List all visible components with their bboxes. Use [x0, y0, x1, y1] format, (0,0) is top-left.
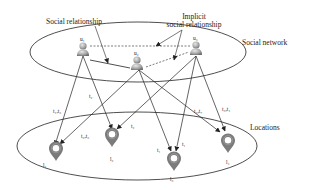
- user-u2-icon: [131, 56, 143, 70]
- locations-label: Locations: [250, 124, 280, 132]
- social-relationship-label: Social relationship: [46, 18, 102, 26]
- user-u2-label: u₂: [134, 49, 139, 57]
- user-u1-label: u₁: [80, 35, 85, 43]
- location-l2-label: l₂: [110, 155, 113, 163]
- edge-label-u3-l4: t₃,t₄: [222, 105, 230, 113]
- edge-label-u2-l2: t₂: [131, 122, 134, 130]
- social-network-label: Social network: [242, 39, 287, 47]
- location-l4-pin-icon: [221, 134, 235, 154]
- implicit-label-line2: social relationship: [154, 21, 234, 29]
- edge-u3-l3: [176, 56, 196, 151]
- edge-label-u2-l1: t₂,t₃: [81, 132, 89, 140]
- edge-u2-l1: [60, 70, 139, 144]
- user-u3-label: u₃: [193, 34, 198, 42]
- location-l4-label: l₄: [226, 158, 229, 166]
- user-u3-icon: [190, 41, 202, 55]
- edge-u1-l1: [55, 56, 83, 145]
- edge-u3-l2: [117, 56, 196, 129]
- user-u1-icon: [77, 42, 89, 56]
- location-l3-label: l₃: [170, 175, 173, 183]
- pointer-social-relationship: [95, 26, 108, 63]
- location-l1-label: l₁: [43, 161, 46, 169]
- edge-u1-u2: [90, 60, 130, 68]
- edge-label-u2-l4: t₄,t₇: [194, 107, 202, 115]
- edge-label-u1-l1: t₁,t₃: [53, 107, 61, 115]
- location-l1-pin-icon: [49, 142, 63, 162]
- edge-label-u3-l3: t₁: [182, 140, 185, 148]
- location-l3-pin-icon: [167, 152, 181, 172]
- edge-label-u2-l3: t₁: [157, 146, 160, 154]
- edge-label-u1-l2: t₂: [89, 92, 92, 100]
- location-l2-pin-icon: [105, 128, 119, 148]
- edge-u2-u3-implicit: [146, 52, 189, 67]
- edge-u3-l4: [196, 56, 225, 131]
